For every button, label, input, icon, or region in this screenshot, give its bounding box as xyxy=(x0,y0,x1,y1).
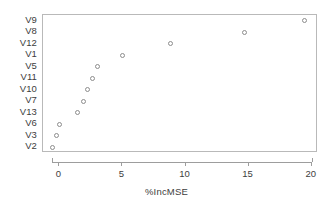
plot-panel xyxy=(42,14,317,152)
x-axis-ticklabel-0: 0 xyxy=(56,168,61,179)
y-axis-label-v5: V5 xyxy=(25,61,37,71)
x-axis-tick-5 xyxy=(121,162,122,166)
x-axis-ticklabel-15: 15 xyxy=(242,168,253,179)
x-axis-tick-15 xyxy=(248,162,249,166)
x-axis-tick-10 xyxy=(185,162,186,166)
y-axis-label-v2: V2 xyxy=(25,141,37,151)
data-point-v1 xyxy=(120,53,125,58)
x-axis-tick-0 xyxy=(58,162,59,166)
data-point-v12 xyxy=(168,41,173,46)
y-axis-label-v13: V13 xyxy=(20,107,37,117)
data-point-v3 xyxy=(54,133,59,138)
y-axis-label-v12: V12 xyxy=(20,38,37,48)
data-point-v6 xyxy=(57,122,62,127)
x-axis-ticklabel-5: 5 xyxy=(119,168,124,179)
y-axis-label-v11: V11 xyxy=(21,72,38,82)
y-axis-label-v9: V9 xyxy=(25,15,37,25)
variable-importance-dotchart: V9V8V12V1V5V11V10V7V13V6V3V2 05101520 %I… xyxy=(0,0,333,206)
y-axis-label-v8: V8 xyxy=(25,26,37,36)
data-point-v7 xyxy=(81,99,86,104)
x-axis-ticklabel-10: 10 xyxy=(179,168,190,179)
x-axis-ticklabel-20: 20 xyxy=(305,168,316,179)
data-point-v10 xyxy=(85,87,90,92)
x-axis-end-cap-left xyxy=(52,158,53,162)
data-point-v5 xyxy=(95,64,100,69)
data-point-v11 xyxy=(90,76,95,81)
y-axis-label-v6: V6 xyxy=(25,118,37,128)
data-point-v8 xyxy=(242,30,247,35)
x-axis-line xyxy=(52,162,311,163)
x-axis-tick-20 xyxy=(311,162,312,166)
y-axis-category-labels: V9V8V12V1V5V11V10V7V13V6V3V2 xyxy=(0,14,40,152)
x-axis-end-cap-right xyxy=(312,158,313,162)
y-axis-label-v7: V7 xyxy=(25,95,37,105)
y-axis-label-v10: V10 xyxy=(20,84,37,94)
x-axis-title: %IncMSE xyxy=(0,186,333,197)
data-point-v2 xyxy=(50,145,55,150)
y-axis-label-v1: V1 xyxy=(25,49,37,59)
data-point-v13 xyxy=(75,110,80,115)
y-axis-label-v3: V3 xyxy=(25,130,37,140)
data-point-v9 xyxy=(302,18,307,23)
